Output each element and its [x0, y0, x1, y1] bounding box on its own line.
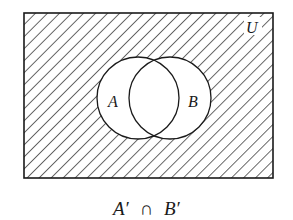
venn-diagram: U A B A′ ∩ B′: [0, 0, 293, 220]
caption-left: A′: [111, 198, 130, 219]
universe-label: U: [246, 19, 259, 36]
set-b-label: B: [188, 93, 198, 110]
shaded-region: [24, 13, 273, 178]
caption: A′ ∩ B′: [111, 198, 181, 219]
set-a-label: A: [107, 93, 118, 110]
caption-operator: ∩: [140, 198, 154, 219]
caption-right: B′: [164, 198, 181, 219]
